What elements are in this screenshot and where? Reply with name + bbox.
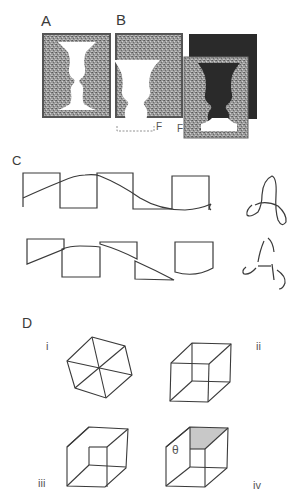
- panel-d-necker-cubes: [67, 337, 231, 487]
- panel-a-vase-illusion: [43, 34, 110, 117]
- cube-iv: [166, 427, 228, 487]
- cube-ii: [170, 343, 231, 402]
- theta-symbol: θ: [172, 444, 179, 456]
- figure-canvas: [0, 0, 304, 500]
- panel-c-waveforms: [23, 173, 286, 289]
- f-mark-2: F: [177, 124, 183, 134]
- sublabel-iii: iii: [38, 478, 45, 489]
- sublabel-iv: iv: [253, 480, 261, 491]
- panel-label-d: D: [22, 316, 32, 330]
- sublabel-ii: ii: [256, 341, 261, 352]
- panel-label-b: B: [116, 12, 126, 27]
- panel-label-a: A: [41, 13, 51, 28]
- cube-i-hexagon: [67, 337, 132, 398]
- panel-label-c: C: [12, 154, 21, 167]
- sublabel-i: i: [46, 341, 48, 352]
- f-mark-1: F: [156, 122, 162, 132]
- panel-b-figure-ground: [114, 34, 257, 138]
- cube-iii: [67, 427, 128, 487]
